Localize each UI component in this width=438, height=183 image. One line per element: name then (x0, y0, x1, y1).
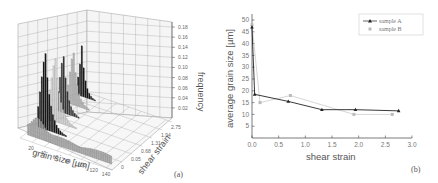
histogram-bar (72, 110, 73, 116)
histogram-bar (58, 92, 59, 123)
histogram-bar (81, 46, 82, 97)
x-tick-label: 1.0 (301, 141, 310, 148)
z-tick-label: 0.02 (178, 105, 188, 111)
histogram-bar (60, 130, 61, 135)
x-tick-label: 0.5 (274, 141, 283, 148)
histogram-bar (85, 80, 86, 97)
histogram-bar (108, 155, 109, 164)
x-tick-label: 3.0 (407, 141, 416, 148)
histogram-bar (40, 121, 41, 140)
histogram-bar (86, 148, 87, 156)
square-marker-icon (352, 113, 355, 116)
histogram-bar (38, 119, 39, 139)
square-marker-icon (289, 94, 292, 97)
z-tick-label: 0.18 (178, 24, 188, 30)
histogram-bar (92, 98, 93, 100)
histogram-bar (42, 124, 43, 140)
y-tick-label: 30 (242, 63, 250, 70)
square-marker-icon (259, 101, 262, 104)
histogram-bar (35, 118, 36, 138)
histogram-bar (53, 135, 54, 144)
histogram-bar (103, 152, 104, 162)
histogram-bar (73, 143, 74, 151)
histogram-bar (66, 140, 67, 149)
histogram-bar (46, 130, 47, 142)
histogram-bar (79, 64, 80, 96)
x-tick-label: 140 (102, 171, 111, 177)
histogram-bar (59, 137, 60, 147)
data-series (250, 23, 400, 116)
histogram-bar (60, 102, 61, 124)
histogram-bar (68, 100, 69, 115)
histogram-bar (53, 66, 54, 122)
histogram-bar (48, 94, 49, 131)
histogram-bar (74, 113, 75, 117)
x-tick-label: 2.5 (381, 141, 390, 148)
histogram-bar (84, 147, 85, 155)
square-marker-icon (391, 113, 394, 116)
histogram-bar (71, 125, 72, 128)
histogram-bar (52, 114, 53, 132)
histogram-bar (70, 123, 71, 127)
histogram-bar (68, 141, 69, 150)
z-tick-label: 0.10 (178, 64, 188, 70)
histogram-bar (78, 93, 79, 107)
z-axis-ticks: 0.020.040.060.080.100.120.140.160.18 (172, 22, 188, 118)
legend-label-a: sample A (379, 18, 402, 24)
histogram-bar (90, 148, 91, 157)
legend: sample A sample B (359, 14, 423, 35)
y-tick-label: 20 (242, 87, 250, 94)
histogram-bar (61, 137, 62, 147)
histogram-bar (80, 99, 81, 108)
histogram-bar (81, 147, 82, 154)
z-tick-label: 0.08 (178, 75, 188, 81)
histogram-bar (57, 136, 58, 146)
histogram-bar (62, 109, 63, 124)
histogram-bar (43, 62, 44, 130)
histogram-bar (31, 121, 32, 136)
histogram-bar (50, 133, 51, 143)
histogram-bar (29, 123, 30, 136)
histogram-bar (84, 105, 85, 109)
histogram-bar (99, 151, 100, 161)
histogram-bar (88, 93, 89, 99)
histogram-bar (64, 114, 65, 125)
histogram-bar (83, 67, 84, 97)
histogram-bar (90, 96, 91, 100)
histogram-bar (71, 59, 72, 105)
histogram-bar (69, 72, 70, 104)
histogram-bar (70, 141, 71, 150)
histogram-bar (56, 125, 57, 134)
histogram-bar (82, 103, 83, 109)
histogram-bar (67, 91, 68, 114)
histogram-bar (72, 142, 73, 150)
histogram-bar (97, 150, 98, 160)
triangle-marker-icon (253, 92, 257, 95)
series-line-a (252, 27, 399, 111)
histogram-bar (41, 77, 42, 129)
histogram-bar (57, 78, 58, 122)
panel-label-b: (b) (411, 165, 421, 174)
histogram-bar (55, 135, 56, 145)
histogram-bar (92, 149, 93, 158)
histogram-bar (77, 85, 78, 107)
x-tick-label: 2.0 (354, 141, 363, 148)
z-tick-label: 0.04 (178, 95, 188, 101)
y-tick-label: 15 (242, 99, 250, 106)
histogram-bar (88, 148, 89, 156)
y-tick-label: 50 (242, 16, 250, 23)
z-tick-label: 0.14 (178, 44, 188, 50)
histogram-bar (107, 154, 108, 163)
z-tick-label: 0.06 (178, 85, 188, 91)
x-tick-label: 120 (90, 167, 99, 173)
histogram-bar (50, 106, 51, 132)
histogram-bar (61, 132, 62, 135)
x-tick-label: 1.5 (327, 141, 336, 148)
histogram-bar (37, 117, 38, 138)
chart-a: 0.020.040.060.080.100.120.140.160.18 fre… (18, 10, 206, 179)
histogram-bar (65, 78, 66, 114)
x-tick-label: 0.0 (247, 141, 256, 148)
histogram-bar (58, 128, 59, 134)
y-tick-label: 10 (242, 111, 250, 118)
histogram-bar (105, 153, 106, 162)
